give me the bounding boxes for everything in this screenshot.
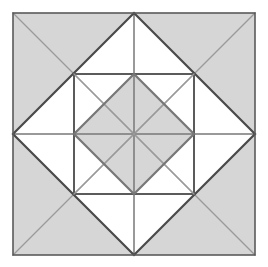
figure-container xyxy=(0,0,268,267)
stroke-layer xyxy=(13,13,255,255)
geometric-figure xyxy=(0,0,268,267)
